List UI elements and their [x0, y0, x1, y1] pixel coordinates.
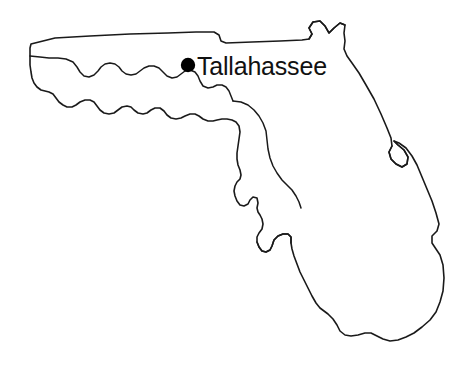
tallahassee-city-dot	[181, 58, 195, 72]
map-svg-canvas: Tallahassee	[0, 0, 475, 371]
tallahassee-city-label: Tallahassee	[197, 52, 327, 80]
florida-map-figure: Tallahassee	[0, 0, 475, 371]
